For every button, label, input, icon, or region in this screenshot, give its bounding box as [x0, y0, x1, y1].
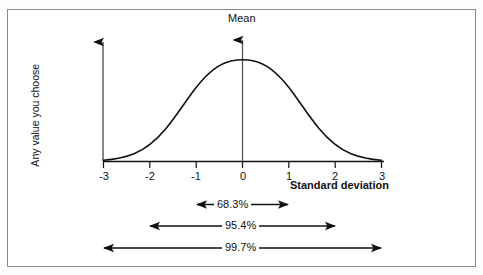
interval-label-99: 99.7%: [222, 242, 259, 253]
interval-label-68: 68.3%: [214, 199, 251, 210]
y-axis-title: Any value you choose: [30, 55, 41, 175]
x-tick-label--1: -1: [188, 171, 204, 182]
interval-label-95: 95.4%: [222, 220, 259, 231]
x-axis-title: Standard deviation: [290, 180, 389, 191]
x-tick-label--3: -3: [96, 171, 112, 182]
mean-label: Mean: [228, 13, 256, 24]
x-tick-label--2: -2: [142, 171, 158, 182]
figure-container: Mean -3 -2 -1 0 1 2 3 Standard deviation…: [0, 0, 483, 275]
x-tick-label-0: 0: [235, 171, 251, 182]
plot-svg: [0, 0, 483, 275]
